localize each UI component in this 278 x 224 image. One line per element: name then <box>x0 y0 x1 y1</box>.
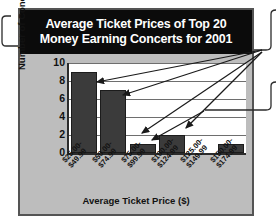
y-tick-label: 10 <box>53 57 65 68</box>
chart-title-banner: Average Ticket Prices of Top 20 Money Ea… <box>20 10 252 54</box>
y-tick-label: 2 <box>59 129 65 140</box>
x-axis-title: Average Ticket Price ($) <box>20 195 252 206</box>
chart-title-line-2: Money Earning Concerts for 2001 <box>40 32 232 47</box>
chart-frame: Average Ticket Prices of Top 20 Money Ea… <box>18 8 254 216</box>
y-axis-title: Number of Concerts <box>16 0 27 70</box>
chart-title-line-1: Average Ticket Prices of Top 20 <box>45 17 226 32</box>
callout-bracket-right-top <box>254 10 276 50</box>
y-tick-label: 4 <box>59 111 65 122</box>
y-tick-label: 6 <box>59 93 65 104</box>
y-tick-label: 8 <box>59 75 65 86</box>
y-axis-tick-labels: 10 8 6 4 2 0 <box>44 57 65 159</box>
